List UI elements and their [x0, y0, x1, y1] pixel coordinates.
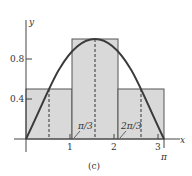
- two-pi-over-3-label: 2π/3: [120, 121, 142, 131]
- riemann-sum-chart: y x 0.8 0.4 1 2 3 π π/3 2π/3 (c): [0, 0, 192, 176]
- x-axis-label: x: [180, 135, 185, 145]
- y-tick-label-04: 0.4: [10, 94, 25, 104]
- x-tick-label-3: 3: [155, 142, 161, 152]
- y-tick-label-08: 0.8: [10, 54, 25, 64]
- y-axis-label: y: [28, 17, 35, 27]
- figure-caption: (c): [88, 161, 100, 171]
- x-tick-label-1: 1: [67, 142, 73, 152]
- x-tick-label-pi: π: [160, 152, 168, 162]
- pi-over-3-label: π/3: [77, 121, 93, 131]
- x-tick-label-2: 2: [111, 142, 117, 152]
